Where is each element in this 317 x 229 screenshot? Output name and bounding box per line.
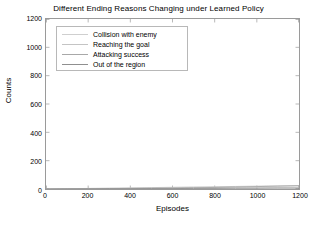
x-tick-label: 0 xyxy=(25,192,65,199)
y-tick-label: 800 xyxy=(2,72,42,79)
legend-label: Out of the region xyxy=(93,60,145,69)
y-axis-tick-labels: 020040060080010001200 xyxy=(0,18,42,190)
y-tick-label: 1200 xyxy=(2,15,42,22)
x-tick-label: 1200 xyxy=(280,192,317,199)
y-tick-label: 400 xyxy=(2,129,42,136)
legend-line-swatch-icon xyxy=(62,44,88,45)
x-axis-tick-labels: 020040060080010001200 xyxy=(45,192,300,204)
legend-label: Collision with enemy xyxy=(93,30,157,39)
x-axis-label: Episodes xyxy=(45,204,300,213)
legend-label: Reaching the goal xyxy=(93,40,149,49)
legend-line-swatch-icon xyxy=(62,54,88,55)
legend-item[interactable]: Collision with enemy xyxy=(57,30,187,39)
y-tick-label: 200 xyxy=(2,158,42,165)
legend-line-swatch-icon xyxy=(62,64,88,65)
legend-item[interactable]: Out of the region xyxy=(57,60,187,69)
legend-item[interactable]: Reaching the goal xyxy=(57,40,187,49)
legend-label: Attacking success xyxy=(93,50,149,59)
x-tick-label: 200 xyxy=(68,192,108,199)
x-tick-label: 400 xyxy=(110,192,150,199)
chart-legend: Collision with enemyReaching the goalAtt… xyxy=(56,26,188,71)
chart-figure: Different Ending Reasons Changing under … xyxy=(0,0,317,229)
chart-title: Different Ending Reasons Changing under … xyxy=(0,4,317,13)
y-tick-label: 600 xyxy=(2,101,42,108)
y-tick-label: 1000 xyxy=(2,43,42,50)
legend-item[interactable]: Attacking success xyxy=(57,50,187,59)
x-tick-label: 1000 xyxy=(238,192,278,199)
x-tick-label: 600 xyxy=(153,192,193,199)
legend-line-swatch-icon xyxy=(62,34,88,35)
x-tick-label: 800 xyxy=(195,192,235,199)
